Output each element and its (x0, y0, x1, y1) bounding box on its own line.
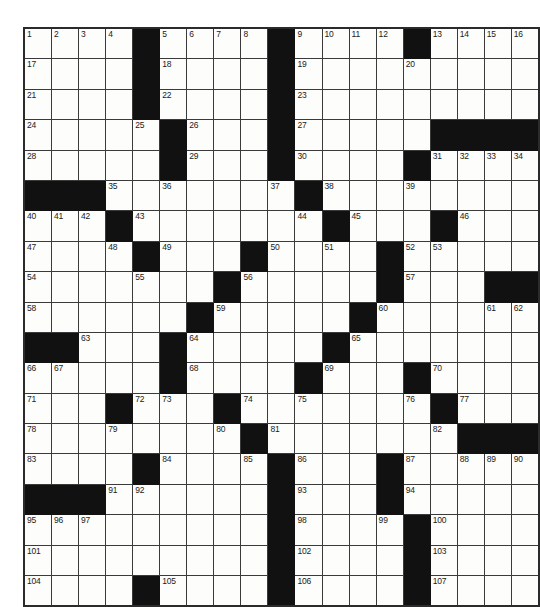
grid-cell[interactable] (106, 120, 133, 150)
grid-cell[interactable] (511, 393, 539, 423)
grid-cell[interactable] (214, 150, 241, 180)
grid-cell[interactable] (322, 545, 349, 575)
grid-cell-numbered[interactable]: 84 (160, 454, 187, 484)
grid-cell[interactable] (295, 272, 322, 302)
grid-cell[interactable] (349, 424, 376, 454)
grid-cell[interactable] (484, 59, 511, 89)
grid-cell[interactable] (349, 241, 376, 271)
grid-cell[interactable] (349, 545, 376, 575)
grid-cell-numbered[interactable]: 7 (214, 28, 241, 59)
grid-cell-numbered[interactable]: 19 (295, 59, 322, 89)
grid-cell-numbered[interactable]: 60 (376, 302, 403, 332)
grid-cell-numbered[interactable]: 70 (430, 363, 457, 393)
grid-cell-numbered[interactable]: 94 (403, 484, 430, 514)
grid-cell[interactable] (349, 576, 376, 607)
grid-cell[interactable] (241, 180, 268, 210)
grid-cell[interactable] (241, 120, 268, 150)
grid-cell[interactable] (79, 545, 106, 575)
grid-cell-numbered[interactable]: 39 (403, 180, 430, 210)
grid-cell-numbered[interactable]: 15 (484, 28, 511, 59)
grid-cell[interactable] (79, 120, 106, 150)
grid-cell[interactable] (214, 59, 241, 89)
grid-cell[interactable] (160, 272, 187, 302)
grid-cell[interactable] (322, 302, 349, 332)
grid-cell[interactable] (79, 241, 106, 271)
grid-cell[interactable] (376, 89, 403, 119)
grid-cell[interactable] (430, 302, 457, 332)
grid-cell-numbered[interactable]: 52 (403, 241, 430, 271)
grid-cell[interactable] (106, 332, 133, 362)
grid-cell-numbered[interactable]: 77 (457, 393, 484, 423)
grid-cell-numbered[interactable]: 8 (241, 28, 268, 59)
grid-cell[interactable] (187, 545, 214, 575)
grid-cell-numbered[interactable]: 90 (511, 454, 539, 484)
grid-cell-numbered[interactable]: 69 (322, 363, 349, 393)
grid-cell-numbered[interactable]: 30 (295, 150, 322, 180)
grid-cell-numbered[interactable]: 89 (484, 454, 511, 484)
grid-cell[interactable] (430, 180, 457, 210)
grid-cell[interactable] (511, 180, 539, 210)
grid-cell[interactable] (457, 363, 484, 393)
grid-cell[interactable] (79, 89, 106, 119)
grid-cell[interactable] (376, 211, 403, 241)
grid-cell-numbered[interactable]: 44 (295, 211, 322, 241)
grid-cell[interactable] (511, 59, 539, 89)
grid-cell-numbered[interactable]: 36 (160, 180, 187, 210)
grid-cell[interactable] (376, 363, 403, 393)
grid-cell-numbered[interactable]: 6 (187, 28, 214, 59)
grid-cell[interactable] (187, 454, 214, 484)
grid-cell[interactable] (511, 363, 539, 393)
grid-cell[interactable] (52, 272, 79, 302)
grid-cell[interactable] (349, 272, 376, 302)
grid-cell-numbered[interactable]: 50 (268, 241, 295, 271)
grid-cell[interactable] (376, 393, 403, 423)
grid-cell[interactable] (430, 454, 457, 484)
grid-cell[interactable] (403, 332, 430, 362)
grid-cell[interactable] (79, 454, 106, 484)
grid-cell-numbered[interactable]: 11 (349, 28, 376, 59)
grid-cell-numbered[interactable]: 74 (241, 393, 268, 423)
grid-cell[interactable] (187, 393, 214, 423)
grid-cell[interactable] (430, 484, 457, 514)
grid-cell-numbered[interactable]: 43 (133, 211, 160, 241)
grid-cell-numbered[interactable]: 34 (511, 150, 539, 180)
grid-cell-numbered[interactable]: 10 (322, 28, 349, 59)
grid-cell-numbered[interactable]: 3 (79, 28, 106, 59)
grid-cell-numbered[interactable]: 47 (24, 241, 52, 271)
grid-cell[interactable] (457, 89, 484, 119)
grid-cell[interactable] (52, 59, 79, 89)
grid-cell[interactable] (187, 211, 214, 241)
grid-cell[interactable] (187, 424, 214, 454)
grid-cell[interactable] (79, 150, 106, 180)
grid-cell[interactable] (214, 211, 241, 241)
grid-cell-numbered[interactable]: 83 (24, 454, 52, 484)
grid-cell-numbered[interactable]: 9 (295, 28, 322, 59)
grid-cell[interactable] (214, 454, 241, 484)
grid-cell[interactable] (295, 241, 322, 271)
grid-cell-numbered[interactable]: 71 (24, 393, 52, 423)
grid-cell[interactable] (79, 272, 106, 302)
grid-cell[interactable] (106, 576, 133, 607)
grid-cell[interactable] (376, 424, 403, 454)
grid-cell[interactable] (322, 272, 349, 302)
grid-cell[interactable] (106, 454, 133, 484)
grid-cell-numbered[interactable]: 86 (295, 454, 322, 484)
grid-cell[interactable] (322, 120, 349, 150)
grid-cell[interactable] (349, 180, 376, 210)
grid-cell[interactable] (484, 332, 511, 362)
grid-cell[interactable] (241, 211, 268, 241)
grid-cell[interactable] (52, 576, 79, 607)
grid-cell-numbered[interactable]: 64 (187, 332, 214, 362)
grid-cell[interactable] (322, 454, 349, 484)
grid-cell[interactable] (484, 180, 511, 210)
grid-cell[interactable] (187, 89, 214, 119)
grid-cell[interactable] (79, 363, 106, 393)
grid-cell-numbered[interactable]: 18 (160, 59, 187, 89)
grid-cell-numbered[interactable]: 79 (106, 424, 133, 454)
grid-cell-numbered[interactable]: 57 (403, 272, 430, 302)
grid-cell[interactable] (133, 150, 160, 180)
grid-cell-numbered[interactable]: 68 (187, 363, 214, 393)
grid-cell[interactable] (349, 59, 376, 89)
grid-cell-numbered[interactable]: 92 (133, 484, 160, 514)
grid-cell[interactable] (160, 424, 187, 454)
